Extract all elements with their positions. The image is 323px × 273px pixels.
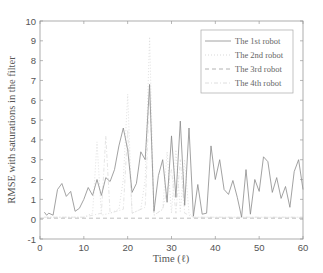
x-tick-label: 30 [166, 242, 177, 253]
y-tick-label: 8 [31, 55, 36, 66]
legend-label: The 3rd robot [235, 64, 282, 74]
y-tick-label: 10 [25, 16, 36, 27]
x-axis-label: Time (ℓ) [153, 253, 190, 265]
legend-label: The 2nd robot [235, 50, 284, 60]
y-tick-label: 2 [31, 174, 36, 185]
x-tick-label: 40 [210, 242, 221, 253]
y-tick-label: 7 [31, 75, 36, 86]
legend-label: The 1st robot [235, 36, 281, 46]
line-chart: 0102030405060 -1012345678910 Time (ℓ) RM… [0, 0, 323, 273]
y-axis-label: RMSE with saturations in the filter [6, 56, 17, 204]
legend: The 1st robot The 2nd robot The 3rd robo… [201, 30, 293, 93]
y-tick-label: 3 [31, 154, 36, 165]
x-tick-label: 60 [298, 242, 309, 253]
x-tick-label: 10 [79, 242, 90, 253]
y-tick-label: -1 [28, 234, 36, 245]
y-tick-label: 4 [31, 134, 36, 145]
y-tick-label: 9 [31, 35, 36, 46]
x-tick-label: 20 [122, 242, 133, 253]
x-tick-label: 0 [37, 242, 42, 253]
x-tick-label: 50 [254, 242, 265, 253]
y-tick-label: 6 [31, 95, 36, 106]
y-tick-label: 1 [31, 194, 36, 205]
legend-label: The 4th robot [235, 78, 282, 88]
y-tick-label: 0 [31, 214, 36, 225]
y-tick-label: 5 [31, 115, 36, 126]
